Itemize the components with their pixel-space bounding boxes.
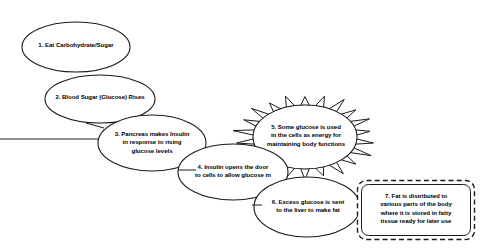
diagram-canvas: 1. Eat Carbohydrate/Sugar 2. Blood Sugar… <box>0 0 483 250</box>
node-step-7-shape[interactable] <box>358 181 475 240</box>
connector-2-3 <box>86 123 104 128</box>
starburst-spike <box>355 139 373 144</box>
starburst-spike <box>301 97 310 106</box>
node-step-1-shape[interactable] <box>22 22 130 72</box>
diagram-shapes <box>0 0 483 250</box>
node-step-6-shape[interactable] <box>254 177 360 237</box>
starburst-spike <box>233 130 255 135</box>
starburst-spike <box>237 139 255 144</box>
